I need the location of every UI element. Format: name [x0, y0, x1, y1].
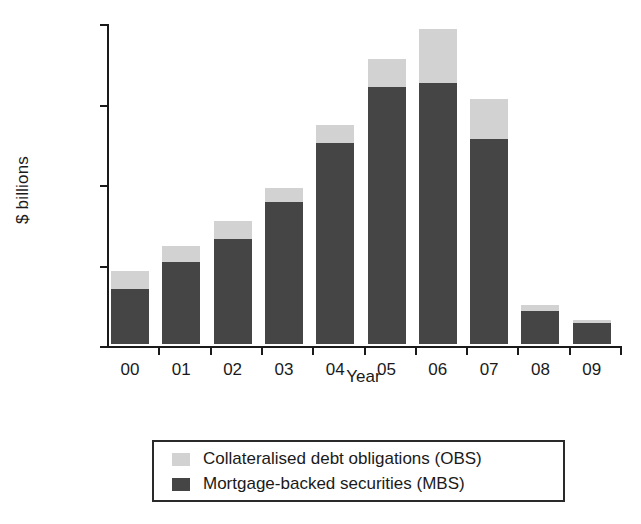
bar-segment-cdo-04 [316, 125, 354, 143]
bar-stack-07 [470, 99, 508, 344]
bar-segment-mbs-02 [214, 239, 252, 344]
bar-stack-00 [111, 271, 149, 344]
bar-stack-01 [162, 246, 200, 344]
x-tick-04 [364, 346, 366, 355]
y-axis-title: $ billions [13, 120, 33, 260]
x-tick-09 [620, 346, 622, 355]
x-tick-00 [158, 346, 160, 355]
y-tick-2000 [100, 24, 108, 26]
bar-segment-mbs-09 [573, 323, 611, 344]
stacked-bar-chart: $ billions 0500100015002000 000102030405… [0, 0, 641, 524]
legend-swatch-mbs-icon [172, 478, 190, 491]
bar-stack-05 [368, 59, 406, 344]
bar-stack-02 [214, 221, 252, 344]
bar-segment-cdo-02 [214, 221, 252, 239]
y-tick-500 [100, 266, 108, 268]
bar-segment-mbs-08 [521, 311, 559, 344]
x-tick-01 [210, 346, 212, 355]
bar-segment-mbs-06 [419, 83, 457, 344]
x-axis-title: Year [107, 367, 620, 387]
x-tick-06 [466, 346, 468, 355]
bar-segment-cdo-06 [419, 29, 457, 83]
legend-label-mbs: Mortgage-backed securities (MBS) [203, 474, 465, 494]
bar-segment-cdo-01 [162, 246, 200, 262]
bar-segment-mbs-03 [265, 202, 303, 344]
bar-segment-cdo-00 [111, 271, 149, 289]
x-tick-07 [517, 346, 519, 355]
bar-stack-04 [316, 125, 354, 344]
x-tick-05 [415, 346, 417, 355]
bar-segment-mbs-04 [316, 143, 354, 344]
plot-area: 0500100015002000 00010203040506070809 [107, 24, 620, 346]
bar-segment-mbs-07 [470, 139, 508, 344]
legend-label-cdo: Collateralised debt obligations (OBS) [203, 449, 482, 469]
y-tick-1000 [100, 185, 108, 187]
y-tick-1500 [100, 105, 108, 107]
bar-segment-cdo-05 [368, 59, 406, 87]
x-tick-02 [261, 346, 263, 355]
x-tick-08 [569, 346, 571, 355]
legend-item-cdo: Collateralised debt obligations (OBS) [172, 447, 482, 471]
bar-segment-cdo-09 [573, 320, 611, 323]
bar-segment-cdo-07 [470, 99, 508, 139]
legend-item-mbs: Mortgage-backed securities (MBS) [172, 472, 465, 496]
bar-stack-06 [419, 29, 457, 344]
bar-segment-cdo-03 [265, 188, 303, 202]
bar-segment-cdo-08 [521, 305, 559, 311]
x-tick-03 [312, 346, 314, 355]
bar-stack-08 [521, 305, 559, 344]
bar-segment-mbs-01 [162, 262, 200, 344]
bar-stack-03 [265, 188, 303, 344]
y-tick-0 [100, 346, 108, 348]
chart-legend: Collateralised debt obligations (OBS) Mo… [152, 440, 565, 502]
bar-segment-mbs-05 [368, 87, 406, 344]
bar-stack-09 [573, 320, 611, 344]
bar-segment-mbs-00 [111, 289, 149, 344]
legend-swatch-cdo-icon [172, 453, 190, 466]
